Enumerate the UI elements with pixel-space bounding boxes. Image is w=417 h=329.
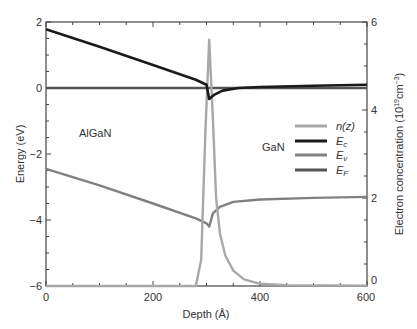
x-axis-title: Depth (Å) xyxy=(182,308,229,320)
legend-ef: EF xyxy=(336,164,349,178)
legend: n(z) Ec Ev EF xyxy=(295,120,355,178)
x-tick-label: 400 xyxy=(251,291,269,303)
legend-n: n(z) xyxy=(336,120,355,132)
series-nz-line xyxy=(46,40,367,286)
band-diagram-chart: 0 200 400 600 2 0 −2 −4 −6 6 4 2 0 Depth… xyxy=(0,0,417,329)
y-right-axis-title: Electron concentration (1019cm−3) xyxy=(393,73,405,236)
x-tick-label: 0 xyxy=(43,291,49,303)
y-right-tick-label: 6 xyxy=(371,16,377,28)
gan-label: GaN xyxy=(262,141,285,153)
y-right-tick-label: 2 xyxy=(371,192,377,204)
y-left-tick-label: −4 xyxy=(29,214,42,226)
series-ev-line xyxy=(46,169,367,227)
y-right-tick-label: 4 xyxy=(371,104,377,116)
data-series xyxy=(46,29,367,286)
legend-ev: Ev xyxy=(336,149,348,163)
legend-ec: Ec xyxy=(336,135,347,149)
y-left-tick-label: −2 xyxy=(29,148,42,160)
x-tick-label: 200 xyxy=(144,291,162,303)
x-tick-label: 600 xyxy=(357,291,375,303)
y-left-tick-label: 0 xyxy=(36,82,42,94)
y-left-axis-title: Energy (eV) xyxy=(14,125,26,184)
y-left-tick-label: 2 xyxy=(36,16,42,28)
y-left-tick-label: −6 xyxy=(29,280,42,292)
y-right-tick-label: 0 xyxy=(371,274,377,286)
algan-label: AlGaN xyxy=(79,127,111,139)
